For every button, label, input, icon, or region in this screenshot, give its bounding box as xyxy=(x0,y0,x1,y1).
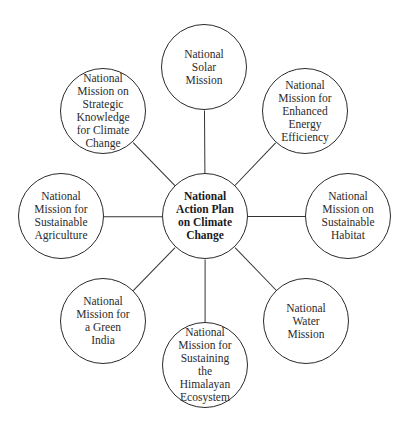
label-line: India xyxy=(63,334,143,347)
label-line: Ecosystem xyxy=(165,391,245,404)
label-line: Solar xyxy=(164,61,244,74)
label-line: Mission on xyxy=(63,85,143,98)
center-label-line: Action Plan xyxy=(165,203,245,216)
label-line: National xyxy=(63,72,143,85)
label-line: a Green xyxy=(63,321,143,334)
node-label: National Mission on Strategic Knowledge … xyxy=(63,72,143,150)
label-line: Sustaining xyxy=(165,352,245,365)
connector-line xyxy=(104,216,162,217)
node-label: National Water Mission xyxy=(266,302,346,341)
label-line: Energy xyxy=(265,118,345,131)
label-line: Mission for xyxy=(165,339,245,352)
node-solar-mission: National Solar Mission xyxy=(161,24,247,110)
label-line: National xyxy=(165,326,245,339)
connector-line xyxy=(133,247,176,291)
label-line: Knowledge xyxy=(63,111,143,124)
node-label: National Mission for a Green India xyxy=(63,295,143,347)
node-label: National Mission for Enhanced Energy Eff… xyxy=(265,79,345,144)
label-line: Mission xyxy=(266,328,346,341)
napcc-hub-diagram: National Action Plan on Climate Change N… xyxy=(0,0,407,425)
center-label-line: National xyxy=(165,190,245,203)
connector-line xyxy=(248,216,305,217)
label-line: Mission xyxy=(164,74,244,87)
label-line: Mission for xyxy=(265,92,345,105)
node-label: National Mission for Sustainable Agricul… xyxy=(21,190,101,242)
node-himalayan-ecosystem: National Mission for Sustaining the Hima… xyxy=(162,322,248,408)
label-line: Strategic xyxy=(63,98,143,111)
label-line: Water xyxy=(266,315,346,328)
label-line: Mission for xyxy=(63,308,143,321)
node-strategic-knowledge: National Mission on Strategic Knowledge … xyxy=(60,68,146,154)
center-node-label: National Action Plan on Climate Change xyxy=(165,190,245,242)
label-line: Mission on xyxy=(308,203,388,216)
connector-line xyxy=(204,260,205,323)
connector-line xyxy=(234,247,276,291)
node-label: National Solar Mission xyxy=(164,48,244,87)
node-sustainable-habitat: National Mission on Sustainable Habitat xyxy=(305,173,391,259)
node-enhanced-energy-efficiency: National Mission for Enhanced Energy Eff… xyxy=(262,68,348,154)
label-line: Agriculture xyxy=(21,229,101,242)
center-node-napcc: National Action Plan on Climate Change xyxy=(162,173,248,259)
label-line: the xyxy=(165,365,245,378)
label-line: National xyxy=(63,295,143,308)
label-line: Sustainable xyxy=(21,216,101,229)
label-line: Change xyxy=(63,137,143,150)
label-line: National xyxy=(266,302,346,315)
node-label: National Mission for Sustaining the Hima… xyxy=(165,326,245,404)
label-line: for Climate xyxy=(63,124,143,137)
label-line: National xyxy=(265,79,345,92)
center-label-line: Change xyxy=(165,229,245,242)
label-line: National xyxy=(308,190,388,203)
label-line: Habitat xyxy=(308,229,388,242)
connector-line xyxy=(204,111,206,174)
connector-line xyxy=(234,142,276,186)
node-water-mission: National Water Mission xyxy=(263,278,349,364)
label-line: Efficiency xyxy=(265,131,345,144)
label-line: National xyxy=(164,48,244,61)
label-line: Sustainable xyxy=(308,216,388,229)
node-sustainable-agriculture: National Mission for Sustainable Agricul… xyxy=(18,173,104,259)
label-line: Mission for xyxy=(21,203,101,216)
center-label-line: on Climate xyxy=(165,216,245,229)
label-line: Enhanced xyxy=(265,105,345,118)
label-line: National xyxy=(21,190,101,203)
label-line: Himalayan xyxy=(165,378,245,391)
node-green-india: National Mission for a Green India xyxy=(60,278,146,364)
node-label: National Mission on Sustainable Habitat xyxy=(308,190,388,242)
